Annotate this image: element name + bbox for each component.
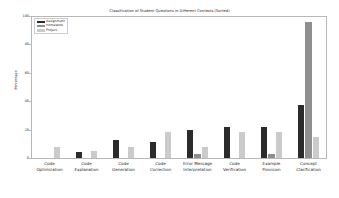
bar bbox=[150, 142, 156, 158]
bar bbox=[128, 147, 134, 158]
bar bbox=[313, 137, 319, 158]
y-tick-label: 40 bbox=[0, 99, 29, 103]
bar bbox=[91, 151, 97, 158]
legend-label: Project bbox=[46, 29, 57, 32]
bar bbox=[165, 132, 171, 158]
bar bbox=[202, 147, 208, 158]
bar-group bbox=[216, 16, 253, 158]
x-axis-label: Code Correction bbox=[142, 161, 179, 172]
chart-title: Classification of Student Questions in D… bbox=[0, 9, 339, 14]
bar-group bbox=[105, 16, 142, 158]
x-axis-label: Code Generation bbox=[105, 161, 142, 172]
chart-legend: AssignmentHomeworkProject bbox=[34, 18, 68, 34]
legend-item[interactable]: Project bbox=[37, 29, 65, 32]
legend-swatch bbox=[37, 25, 45, 28]
bar bbox=[187, 130, 193, 158]
bar bbox=[76, 152, 82, 158]
x-axis-label: Concept Clarification bbox=[290, 161, 327, 172]
bar bbox=[194, 154, 200, 158]
x-axis-label: Example Provision bbox=[253, 161, 290, 172]
bar bbox=[54, 147, 60, 158]
x-axis-label: Code Explanation bbox=[68, 161, 105, 172]
x-axis-labels: Code OptimizationCode ExplanationCode Ge… bbox=[31, 161, 327, 172]
y-tick-label: 0 bbox=[0, 156, 29, 160]
bar bbox=[224, 127, 230, 158]
bar-group bbox=[290, 16, 327, 158]
bar bbox=[305, 22, 311, 158]
y-tick-label: 80 bbox=[0, 42, 29, 46]
bar-group bbox=[142, 16, 179, 158]
y-tick-label: 20 bbox=[0, 128, 29, 132]
x-axis-label: Error Message Interpretation bbox=[179, 161, 216, 172]
x-axis-label: Code Verification bbox=[216, 161, 253, 172]
bar bbox=[261, 127, 267, 158]
bar-group bbox=[68, 16, 105, 158]
x-axis-label: Code Optimization bbox=[31, 161, 68, 172]
bar bbox=[113, 140, 119, 158]
bar-group bbox=[179, 16, 216, 158]
chart-figure: Classification of Student Questions in D… bbox=[0, 0, 339, 198]
bars-layer bbox=[31, 16, 327, 158]
bar bbox=[268, 154, 274, 158]
bar bbox=[298, 105, 304, 158]
legend-swatch bbox=[37, 21, 45, 24]
bar bbox=[239, 132, 245, 158]
bar bbox=[276, 132, 282, 158]
bar-group bbox=[253, 16, 290, 158]
y-tick-label: 100 bbox=[0, 14, 29, 18]
legend-swatch bbox=[37, 29, 45, 32]
bar-group bbox=[31, 16, 68, 158]
y-tick-label: 60 bbox=[0, 71, 29, 75]
